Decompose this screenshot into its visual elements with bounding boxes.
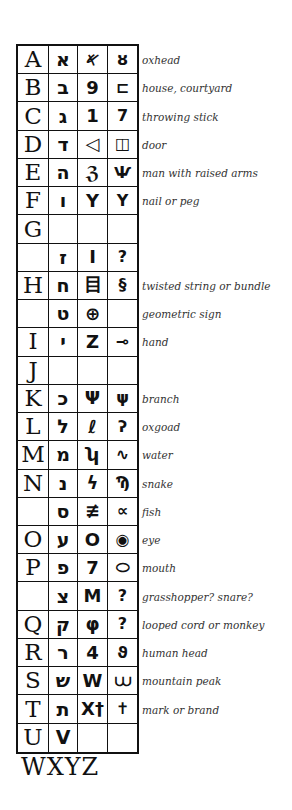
pictograph-glyph [108, 300, 137, 328]
hebrew-letter: כ [49, 385, 78, 413]
hebrew-letter: ג [49, 102, 78, 130]
semitic-glyph: ≢ [78, 498, 108, 526]
pictograph-glyph [108, 724, 137, 752]
semitic-glyph [78, 357, 108, 385]
row-description: branch [142, 385, 270, 413]
latin-letter: B [18, 74, 49, 102]
table-row: Hח目§ [18, 272, 137, 300]
table-row: צM? [18, 582, 137, 610]
row-description [142, 215, 270, 243]
latin-letter: H [18, 272, 49, 300]
description-column: oxheadhouse, courtyardthrowing stickdoor… [142, 46, 270, 752]
pictograph-glyph: ϑ [108, 639, 137, 667]
semitic-glyph: ϟ [78, 470, 108, 498]
semitic-glyph: M [78, 582, 108, 610]
hebrew-letter: ת [49, 695, 78, 723]
row-description: nail or peg [142, 187, 270, 215]
table-row: IיZ⊸ [18, 328, 137, 356]
semitic-glyph: φ [78, 611, 108, 639]
hebrew-letter: V [49, 724, 78, 752]
hebrew-letter: צ [49, 582, 78, 610]
pictograph-glyph: ⊸ [108, 328, 137, 356]
semitic-glyph: Ψ [78, 385, 108, 413]
table-row: KכΨψ [18, 385, 137, 413]
hebrew-letter: ק [49, 611, 78, 639]
pictograph-glyph: 7 [108, 102, 137, 130]
hebrew-letter: ה [49, 159, 78, 187]
pictograph-glyph: ? [108, 582, 137, 610]
row-description: water [142, 441, 270, 469]
table-row: Rר4ϑ [18, 639, 137, 667]
row-description [142, 357, 270, 385]
pictograph-glyph: Ϡ [108, 470, 137, 498]
semitic-glyph: ⊕ [78, 300, 108, 328]
table-row: EהℨѰ [18, 159, 137, 187]
table-row: זI? [18, 244, 137, 272]
semitic-glyph: 𐤀 [78, 46, 108, 74]
semitic-glyph: ʮ [78, 441, 108, 469]
table-row: G [18, 215, 137, 243]
semitic-glyph: 9 [78, 74, 108, 102]
latin-letter: J [18, 357, 49, 385]
row-description: mountain peak [142, 667, 270, 695]
latin-letter: K [18, 385, 49, 413]
table-row: ס≢∝ [18, 498, 137, 526]
semitic-glyph: ◁ [78, 131, 108, 159]
pictograph-glyph: Ѱ [108, 159, 137, 187]
row-description: twisted string or bundle [142, 272, 270, 300]
semitic-glyph: O [78, 526, 108, 554]
semitic-glyph: ℓ [78, 413, 108, 441]
latin-letter: O [18, 526, 49, 554]
hebrew-letter: י [49, 328, 78, 356]
latin-letter: M [18, 441, 49, 469]
pictograph-glyph: ⬭ [108, 554, 137, 582]
latin-letter: G [18, 215, 49, 243]
table-row: Cג17 [18, 102, 137, 130]
row-description: man with raised arms [142, 159, 270, 187]
hebrew-letter: ח [49, 272, 78, 300]
row-description: mark or brand [142, 695, 270, 723]
table-row: Mמʮ∿ [18, 441, 137, 469]
pictograph-glyph: ⩊ [108, 667, 137, 695]
hebrew-letter: א [49, 46, 78, 74]
table-row: FוYY [18, 187, 137, 215]
table-row: Dד◁◫ [18, 131, 137, 159]
hebrew-letter: ב [49, 74, 78, 102]
alphabet-grid: Aא𐤀ȣBב9⊏Cג17Dד◁◫EהℨѰFוYYGזI?Hח目§ט⊕IיZ⊸JK… [16, 44, 139, 754]
latin-letter: I [18, 328, 49, 356]
latin-letter: R [18, 639, 49, 667]
row-description: door [142, 131, 270, 159]
latin-letter [18, 300, 49, 328]
hebrew-letter [49, 357, 78, 385]
pictograph-glyph: ∿ [108, 441, 137, 469]
footer-letters: WXYZ [21, 753, 99, 781]
latin-letter: C [18, 102, 49, 130]
table-row: Bב9⊏ [18, 74, 137, 102]
row-description: fish [142, 498, 270, 526]
semitic-glyph: Z [78, 328, 108, 356]
hebrew-letter: ע [49, 526, 78, 554]
table-row: Pפ7⬭ [18, 554, 137, 582]
latin-letter: N [18, 470, 49, 498]
semitic-glyph [78, 215, 108, 243]
row-description: throwing stick [142, 102, 270, 130]
pictograph-glyph: ? [108, 611, 137, 639]
hebrew-letter: ז [49, 244, 78, 272]
pictograph-glyph: ∝ [108, 498, 137, 526]
row-description: grasshopper? snare? [142, 582, 270, 610]
hebrew-letter [49, 215, 78, 243]
latin-letter [18, 582, 49, 610]
hebrew-letter: ו [49, 187, 78, 215]
latin-letter: E [18, 159, 49, 187]
hebrew-letter: ט [49, 300, 78, 328]
pictograph-glyph [108, 215, 137, 243]
row-description [142, 244, 270, 272]
semitic-glyph: I [78, 244, 108, 272]
row-description: house, courtyard [142, 74, 270, 102]
semitic-glyph: 4 [78, 639, 108, 667]
row-description: snake [142, 470, 270, 498]
latin-letter: Q [18, 611, 49, 639]
semitic-glyph: 7 [78, 554, 108, 582]
table-row: Aא𐤀ȣ [18, 46, 137, 74]
table-row: ט⊕ [18, 300, 137, 328]
